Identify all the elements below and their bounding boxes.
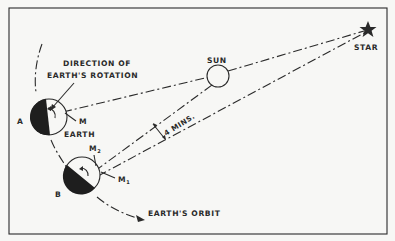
sun-label: SUN [207, 56, 227, 65]
meridian-1-label: M1 [118, 175, 130, 185]
orbit-path-lower [97, 197, 140, 219]
line-a-to-sun [63, 77, 209, 112]
sun-icon [207, 65, 229, 87]
orbit-arrow-icon [136, 215, 145, 222]
orbit-label: EARTH'S ORBIT [148, 209, 221, 218]
direction-label-line2: EARTH'S ROTATION [47, 71, 138, 80]
meridian-label: M [79, 117, 87, 126]
direction-label-line1: DIRECTION OF [63, 59, 131, 68]
earth-a [30, 99, 67, 135]
line-b-to-sun [95, 85, 212, 171]
position-b-label: B [55, 190, 61, 199]
orbit-path-upper [35, 44, 42, 92]
star-icon [360, 21, 377, 37]
position-a-label: A [17, 117, 23, 126]
line-sun-to-star [228, 31, 364, 71]
orbit-path-middle [51, 140, 67, 168]
meridian-1-pointer-line [101, 172, 115, 178]
star-label: STAR [354, 43, 378, 52]
earth-b [63, 157, 100, 195]
earth-label: EARTH [64, 130, 95, 139]
diagram-canvas: DIRECTION OF EARTH'S ROTATION SUN STAR A… [0, 0, 395, 241]
rotation-pointer-line [52, 83, 74, 108]
angle-label: 4 MINS. [162, 112, 196, 138]
meridian-2-label: M2 [89, 144, 101, 154]
line-b-to-star [98, 33, 364, 176]
